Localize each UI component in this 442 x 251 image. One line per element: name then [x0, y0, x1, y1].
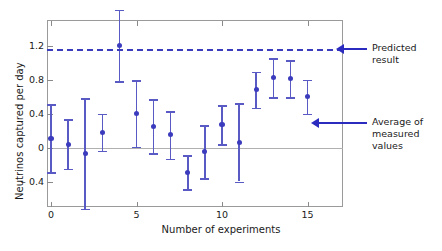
x-tick-label: 15 [288, 209, 328, 220]
error-bar-cap-top [252, 72, 261, 74]
average-value-annotation: Average of measured values [372, 116, 442, 152]
x-tick [137, 202, 138, 207]
error-bar-cap-bottom [81, 209, 90, 211]
x-tick-top [308, 21, 309, 26]
x-tick [222, 202, 223, 207]
error-bar-cap-bottom [200, 178, 209, 180]
error-bar-cap-bottom [183, 189, 192, 191]
error-bar-cap-top [218, 105, 227, 107]
error-bar-cap-top [81, 98, 90, 100]
data-point [48, 136, 53, 141]
error-bar-cap-bottom [149, 153, 158, 155]
data-point [100, 130, 105, 135]
error-bar-cap-top [98, 114, 107, 116]
data-point [83, 151, 88, 156]
error-bar-cap-bottom [303, 114, 312, 116]
x-tick [308, 202, 309, 207]
error-bar-cap-top [269, 58, 278, 60]
y-axis-title: Neutrinos captured per day [14, 62, 25, 200]
predicted-result-arrow [343, 48, 367, 50]
data-point [66, 142, 71, 147]
y-tick [47, 80, 53, 81]
error-bar-cap-top [183, 155, 192, 157]
error-bar-cap-bottom [98, 151, 107, 153]
x-tick-top [137, 21, 138, 26]
x-tick [51, 202, 52, 207]
data-point [219, 122, 224, 127]
x-tick-label: 5 [117, 209, 157, 220]
y-tick [47, 182, 53, 183]
y-tick-label: 0 [6, 142, 44, 153]
y-tick-label: 0.8 [6, 74, 44, 85]
data-point [117, 43, 122, 48]
error-bar-cap-top [303, 80, 312, 82]
error-bar-cap-bottom [47, 172, 56, 174]
error-bar-cap-bottom [132, 147, 141, 149]
error-bar-cap-bottom [218, 144, 227, 146]
error-bar-cap-bottom [286, 97, 295, 99]
x-tick-top [51, 21, 52, 26]
x-tick-label: 0 [31, 209, 71, 220]
error-bar-cap-bottom [269, 97, 278, 99]
x-tick-label: 10 [202, 209, 242, 220]
chart-root: – 0.400.40.81.2 051015 Predicted result … [0, 0, 442, 251]
data-point [254, 87, 259, 92]
error-bar-cap-top [235, 103, 244, 105]
data-point [237, 140, 242, 145]
y-tick-label: 0.4 [6, 108, 44, 119]
y-tick [47, 46, 53, 47]
error-bar-cap-top [149, 99, 158, 101]
data-point [151, 124, 156, 129]
error-bar-cap-top [286, 60, 295, 62]
error-bar-cap-bottom [166, 159, 175, 161]
zero-reference-line [47, 148, 343, 149]
predicted-result-annotation: Predicted result [372, 42, 417, 66]
x-tick-top [222, 21, 223, 26]
error-bar-cap-top [47, 104, 56, 106]
average-value-arrow [318, 122, 367, 124]
y-tick-label: – 0.4 [6, 176, 44, 187]
error-bar-cap-top [200, 125, 209, 127]
predicted-result-line [47, 49, 343, 51]
error-bar-cap-bottom [115, 81, 124, 83]
error-bar-cap-top [115, 10, 124, 12]
y-tick-label: 1.2 [6, 40, 44, 51]
error-bar-cap-bottom [252, 108, 261, 110]
error-bar-cap-top [64, 119, 73, 121]
error-bar-cap-top [132, 80, 141, 82]
error-bar-cap-top [166, 111, 175, 113]
error-bar-cap-bottom [235, 182, 244, 184]
error-bar-cap-bottom [64, 169, 73, 171]
x-axis-title: Number of experiments [0, 224, 442, 235]
